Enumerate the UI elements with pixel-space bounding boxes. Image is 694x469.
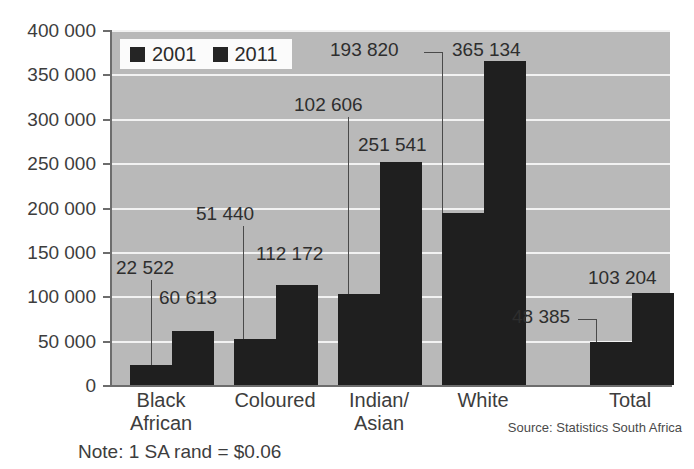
y-tick-mark bbox=[103, 296, 111, 298]
value-label-2011-indian-asian: 251 541 bbox=[358, 135, 427, 155]
value-label-2001-black-african: 22 522 bbox=[116, 258, 174, 278]
bar-2011-total bbox=[632, 293, 674, 385]
x-axis-label-line1: Black bbox=[137, 389, 186, 411]
x-axis-label-coloured: Coloured bbox=[215, 389, 335, 412]
currency-note: Note: 1 SA rand = $0.06 bbox=[78, 441, 281, 463]
y-axis-tick-label: 250 000 bbox=[0, 154, 96, 173]
leader-line-h-2001-white bbox=[424, 52, 442, 53]
y-axis-tick-label: 100 000 bbox=[0, 287, 96, 306]
value-label-2011-coloured: 112 172 bbox=[256, 244, 323, 264]
gridline bbox=[112, 74, 670, 76]
y-axis-tick-label: 300 000 bbox=[0, 110, 96, 129]
value-label-2001-indian-asian: 102 606 bbox=[294, 95, 363, 115]
x-axis-label-total: Total bbox=[570, 389, 690, 412]
x-axis-label-line1: White bbox=[457, 389, 508, 411]
source-note: Source: Statistics South Africa bbox=[508, 420, 682, 435]
y-axis-tick-label: 150 000 bbox=[0, 243, 96, 262]
value-label-2011-black-african: 60 613 bbox=[159, 288, 217, 308]
y-tick-mark bbox=[103, 74, 111, 76]
y-tick-mark bbox=[103, 385, 111, 387]
legend-label: 2001 bbox=[152, 44, 197, 64]
bar-2001-total bbox=[590, 342, 632, 385]
x-axis-label-black-african: Black African bbox=[101, 389, 221, 435]
value-label-2011-white: 365 134 bbox=[452, 40, 521, 60]
bar-2011-coloured bbox=[276, 285, 318, 385]
y-axis-tick-label: 350 000 bbox=[0, 65, 96, 84]
legend-label: 2011 bbox=[235, 44, 278, 64]
bar-2001-coloured bbox=[234, 339, 276, 385]
bar-2001-white bbox=[442, 213, 484, 385]
y-axis-tick-label: 200 000 bbox=[0, 199, 96, 218]
x-axis-label-line1: Coloured bbox=[234, 389, 315, 411]
y-tick-mark bbox=[103, 119, 111, 121]
bar-2001-indian-asian bbox=[338, 294, 380, 385]
value-label-2001-total: 48 385 bbox=[512, 307, 570, 327]
leader-line-v-2001-total bbox=[596, 319, 597, 342]
x-axis-label-indian-asian: Indian/ Asian bbox=[319, 389, 439, 435]
leader-line-2001-black-african bbox=[151, 280, 152, 365]
legend-item-2011: 2011 bbox=[213, 44, 278, 64]
chart-legend: 2001 2011 bbox=[120, 39, 292, 69]
x-axis-line bbox=[110, 385, 672, 387]
leader-line-2001-indian-asian bbox=[348, 117, 349, 294]
value-label-2011-total: 103 204 bbox=[588, 268, 657, 288]
gridline bbox=[112, 30, 670, 32]
legend-swatch-icon bbox=[213, 47, 228, 62]
bar-2011-black-african bbox=[172, 331, 214, 385]
x-axis-label-line2: Asian bbox=[319, 412, 439, 435]
y-tick-mark bbox=[103, 252, 111, 254]
y-axis-tick-label: 400 000 bbox=[0, 21, 96, 40]
bar-2011-indian-asian bbox=[380, 162, 422, 385]
x-axis-label-line1: Total bbox=[609, 389, 651, 411]
x-axis-label-line1: Indian/ bbox=[349, 389, 409, 411]
y-axis-tick-label: 50 000 bbox=[0, 332, 96, 351]
leader-line-v-2001-white bbox=[442, 52, 443, 213]
bar-2011-white bbox=[484, 61, 526, 385]
bar-chart: 400 000 350 000 300 000 250 000 200 000 … bbox=[0, 0, 694, 469]
leader-line-h-2001-total bbox=[578, 319, 596, 320]
x-axis-label-white: White bbox=[423, 389, 543, 412]
legend-item-2001: 2001 bbox=[130, 44, 197, 64]
y-axis-tick-label: 0 bbox=[0, 376, 96, 395]
x-axis-label-line2: African bbox=[101, 412, 221, 435]
y-tick-mark bbox=[103, 163, 111, 165]
bar-2001-black-african bbox=[130, 365, 172, 385]
y-tick-mark bbox=[103, 341, 111, 343]
legend-swatch-icon bbox=[130, 47, 145, 62]
value-label-2001-white: 193 820 bbox=[330, 40, 399, 60]
y-tick-mark bbox=[103, 30, 111, 32]
value-label-2001-coloured: 51 440 bbox=[196, 204, 254, 224]
gridline bbox=[112, 119, 670, 121]
y-tick-mark bbox=[103, 208, 111, 210]
leader-line-2001-coloured bbox=[243, 226, 244, 339]
